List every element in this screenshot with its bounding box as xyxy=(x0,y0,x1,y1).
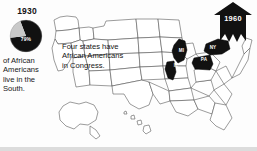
infographic-canvas: 1930 79% of African Americans live in th… xyxy=(0,0,257,151)
legend-caption: of African Americans live in the South. xyxy=(3,56,50,94)
state-label-il: IL xyxy=(172,63,180,68)
state-label-mi: MI xyxy=(177,48,186,53)
state-label-ny: NY xyxy=(208,45,218,50)
map-annotation-callout: Four states have African Americans in Co… xyxy=(62,42,126,70)
legend-year-label: 1930 xyxy=(4,6,50,16)
pie-percent-label: 79% xyxy=(9,36,43,42)
page-edge-strip xyxy=(0,147,257,151)
state-label-pa: PA xyxy=(199,57,209,62)
arrow-year-label: 1960 xyxy=(211,14,255,23)
legend-panel: 1930 79% of African Americans live in th… xyxy=(2,6,50,94)
pie-chart: 79% xyxy=(9,19,43,53)
